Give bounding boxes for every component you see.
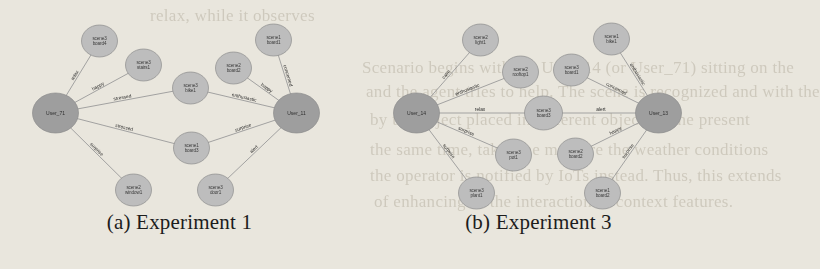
- object-node-label-item: board1: [565, 70, 579, 75]
- object-node-label-scene: scene1: [266, 35, 281, 40]
- object-node-label-scene: scene3: [183, 83, 198, 88]
- object-node-label-item: pot1: [509, 155, 518, 160]
- object-node-label-item: door1: [210, 190, 222, 195]
- object-node-label-item: board2: [596, 193, 610, 198]
- user-node-label: User_71: [46, 110, 65, 116]
- object-node-label-scene: scene3: [208, 185, 223, 190]
- edge-label: surprise: [457, 125, 475, 136]
- object-node-label-scene: scene2: [226, 63, 241, 68]
- object-node-label-item: board2: [569, 154, 583, 159]
- edge-label: enthusiastic: [629, 62, 647, 87]
- object-node-label-item: board2: [227, 68, 241, 73]
- object-node-label-scene: scene2: [568, 149, 583, 154]
- object-node-label-scene: scene3: [92, 36, 107, 41]
- edge-label: enthusiastic: [231, 92, 257, 103]
- caption-experiment-1: (a) Experiment 1: [0, 210, 359, 235]
- user-node-label: User_11: [287, 110, 306, 116]
- object-node-label-scene: scene3: [536, 108, 551, 113]
- edge-label: relax: [475, 107, 486, 112]
- object-node-label-item: board1: [267, 40, 281, 45]
- object-node-label-item: rooftop1: [512, 72, 529, 77]
- edge-label: concerned: [282, 64, 294, 87]
- object-node-label-scene: scene2: [126, 185, 141, 190]
- edge-label: alert: [596, 107, 606, 112]
- user-node-label: User_14: [407, 110, 426, 116]
- object-node-label-scene: scene2: [513, 67, 528, 72]
- object-node-label-scene: scene3: [564, 65, 579, 70]
- object-node-label-item: plant1: [471, 193, 483, 198]
- object-node-label-scene: scene1: [595, 188, 610, 193]
- object-node-label-scene: scene1: [184, 143, 199, 148]
- object-node-label-item: bike1: [185, 88, 196, 93]
- user-node-label: User_13: [649, 110, 668, 116]
- object-node-label-item: window1: [125, 190, 143, 195]
- graph-experiment-3: calmenthusiasticrelaxsurprisesurprisecon…: [359, 0, 718, 215]
- object-node-label-item: light1: [475, 40, 486, 45]
- object-node-label-item: stairs1: [137, 65, 150, 70]
- object-node-label-item: board3: [185, 148, 199, 153]
- object-node-label-scene: scene3: [469, 188, 484, 193]
- graph-experiment-1: relaxhappystressedstressedsurpriseenthus…: [0, 0, 359, 215]
- object-node-label-scene: scene1: [604, 34, 619, 39]
- caption-experiment-3: (b) Experiment 3: [359, 210, 718, 235]
- edge-label: surprise: [442, 143, 456, 160]
- object-node-label-scene: scene3: [136, 60, 151, 65]
- object-node-label-item: board3: [537, 113, 551, 118]
- edge-label: surprise: [89, 142, 105, 158]
- panel-experiment-3: calmenthusiasticrelaxsurprisesurprisecon…: [359, 0, 718, 269]
- object-node-label-scene: scene2: [473, 35, 488, 40]
- object-node-label-item: board4: [93, 41, 107, 46]
- object-node-label-scene: scene3: [506, 150, 521, 155]
- object-node-label-item: bike1: [606, 39, 617, 44]
- panel-experiment-1: relaxhappystressedstressedsurpriseenthus…: [0, 0, 359, 269]
